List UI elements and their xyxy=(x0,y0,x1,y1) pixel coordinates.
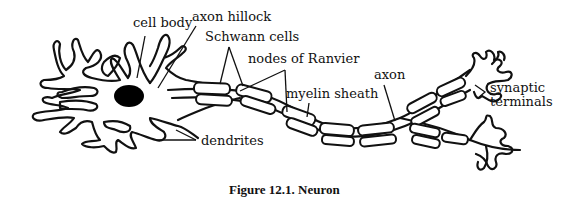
synaptic-terminals xyxy=(466,51,512,170)
schwann-cell-1 xyxy=(194,82,230,94)
label-axon-hillock: axon hillock xyxy=(192,9,271,24)
label-synaptic: synaptic xyxy=(490,80,545,95)
schwann-cell-17 xyxy=(441,132,468,145)
nucleus xyxy=(114,85,144,107)
label-axon: axon xyxy=(374,67,406,82)
schwann-cell-9 xyxy=(358,122,395,136)
label-terminals: terminals xyxy=(490,94,553,109)
leader-schwann-1 xyxy=(220,47,229,84)
leader-schwann-2 xyxy=(229,47,243,86)
label-schwann-cells: Schwann cells xyxy=(205,29,299,44)
label-cell-body: cell body xyxy=(133,15,193,30)
schwann-cell-8 xyxy=(322,135,355,147)
leader-node-1 xyxy=(240,70,285,91)
label-myelin-sheath: myelin sheath xyxy=(286,86,379,101)
leader-axon xyxy=(384,85,395,121)
neuron-diagram: cell body axon hillock Schwann cells nod… xyxy=(0,0,567,199)
label-nodes-of-ranvier: nodes of Ranvier xyxy=(248,51,360,66)
schwann-cell-2 xyxy=(196,94,232,106)
figure-caption: Figure 12.1. Neuron xyxy=(229,182,341,197)
label-dendrites: dendrites xyxy=(201,133,264,148)
